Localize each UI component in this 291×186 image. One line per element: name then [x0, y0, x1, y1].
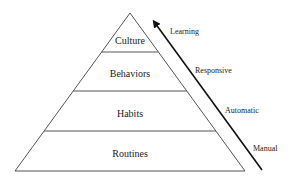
tier-label-behaviors: Behaviors	[110, 68, 151, 79]
stage-label-automatic: Automatic	[225, 106, 259, 115]
tier-label-culture: Culture	[115, 35, 146, 46]
stage-label-responsive: Responsive	[195, 66, 232, 75]
stage-label-manual: Manual	[253, 144, 278, 153]
pyramid-diagram: Culture Behaviors Habits Routines Learni…	[0, 0, 291, 186]
tier-label-routines: Routines	[112, 148, 148, 159]
stage-label-learning: Learning	[170, 27, 199, 36]
tier-label-habits: Habits	[117, 108, 143, 119]
